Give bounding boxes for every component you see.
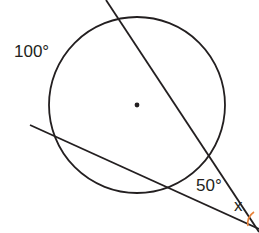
angle-label-x: x	[234, 196, 243, 216]
arc-label-50: 50°	[196, 176, 222, 196]
diagram-canvas: 100° 50° x	[0, 0, 259, 233]
center-point	[135, 103, 140, 108]
secants-figure	[0, 0, 259, 233]
arc-label-100: 100°	[14, 42, 49, 62]
secant-line-2	[30, 125, 259, 229]
